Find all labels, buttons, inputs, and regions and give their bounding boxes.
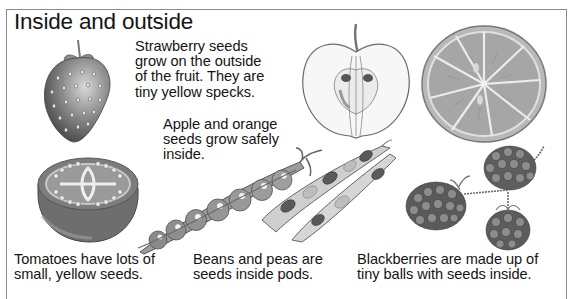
caption-line: grow on the outside [135, 54, 264, 69]
caption-line: tiny yellow specks. [135, 85, 264, 100]
strawberry-caption: Strawberry seeds grow on the outside of … [135, 39, 264, 100]
blackberries-caption: Blackberries are made up of tiny balls w… [357, 252, 538, 282]
tomato-cross-section-illustration [32, 154, 144, 246]
bean-pod-illustration [258, 140, 398, 244]
orange-cross-section-illustration [418, 24, 552, 144]
caption-line: tiny balls with seeds inside. [357, 267, 538, 282]
caption-line: Tomatoes have lots of [14, 252, 155, 267]
caption-line: seeds grow safely [163, 132, 279, 147]
page-title: Inside and outside [14, 9, 193, 35]
apple-cross-section-illustration [296, 20, 416, 142]
caption-line: Strawberry seeds [135, 39, 264, 54]
strawberry-illustration [38, 38, 118, 146]
caption-line: Blackberries are made up of [357, 252, 538, 267]
caption-line: of the fruit. They are [135, 69, 264, 84]
blackberries-illustration [400, 146, 572, 250]
apple-orange-caption: Apple and orange seeds grow safely insid… [163, 117, 279, 163]
tomato-caption: Tomatoes have lots of small, yellow seed… [14, 252, 155, 282]
caption-line: small, yellow seeds. [14, 267, 155, 282]
caption-line: Beans and peas are [193, 252, 323, 267]
caption-line: Apple and orange [163, 117, 279, 132]
beans-peas-caption: Beans and peas are seeds inside pods. [193, 252, 323, 282]
caption-line: seeds inside pods. [193, 267, 323, 282]
caption-line: inside. [163, 147, 279, 162]
